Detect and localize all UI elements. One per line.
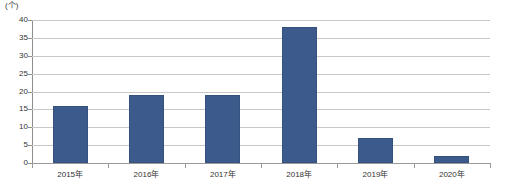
y-axis-tick-label: 5 [2,141,28,149]
y-axis-tick-label: 15 [2,105,28,113]
x-axis-tick-label: 2018年 [286,170,312,180]
x-axis-tick-label: 2016年 [134,170,160,180]
gridline [32,20,490,21]
y-axis-tick-mark [28,74,32,75]
y-axis-tick-label: 0 [2,159,28,167]
y-axis-tick-mark [28,127,32,128]
plot-area [32,20,490,163]
bar-chart: (个) 0510152025303540 2015年2016年2017年2018… [0,0,507,188]
x-axis-tick-label: 2020年 [439,170,465,180]
x-axis-tick-mark [185,163,186,168]
x-axis-tick-mark [414,163,415,168]
gridline [32,92,490,93]
x-axis-tick-label: 2019年 [363,170,389,180]
bar[interactable] [205,95,240,163]
x-axis-tick-labels: 2015年2016年2017年2018年2019年2020年 [32,170,490,184]
y-axis-tick-mark [28,92,32,93]
y-axis-tick-mark [28,38,32,39]
gridline [32,145,490,146]
x-axis-tick-mark [490,163,491,168]
y-axis-tick-label: 30 [2,52,28,60]
x-axis-tick-label: 2017年 [210,170,236,180]
y-axis-tick-label: 35 [2,34,28,42]
gridline [32,109,490,110]
bar[interactable] [358,138,393,163]
x-axis-tick-marks [32,163,490,169]
gridline [32,56,490,57]
y-axis-tick-label: 40 [2,16,28,24]
bar[interactable] [53,106,88,163]
y-axis-tick-label: 10 [2,123,28,131]
gridline [32,127,490,128]
y-axis-tick-labels: 0510152025303540 [0,20,28,163]
y-axis-tick-mark [28,109,32,110]
y-axis-tick-label: 20 [2,88,28,96]
bar[interactable] [129,95,164,163]
x-axis-tick-mark [32,163,33,168]
y-axis-tick-mark [28,163,32,164]
gridline [32,74,490,75]
bar[interactable] [282,27,317,163]
y-axis-tick-mark [28,145,32,146]
bar[interactable] [434,156,469,163]
x-axis-tick-mark [108,163,109,168]
x-axis-tick-label: 2015年 [57,170,83,180]
x-axis-tick-mark [261,163,262,168]
x-axis-tick-mark [337,163,338,168]
gridline [32,38,490,39]
y-axis-tick-mark [28,56,32,57]
y-axis-tick-mark [28,20,32,21]
y-axis-unit-label: (个) [5,1,18,11]
y-axis-tick-label: 25 [2,70,28,78]
